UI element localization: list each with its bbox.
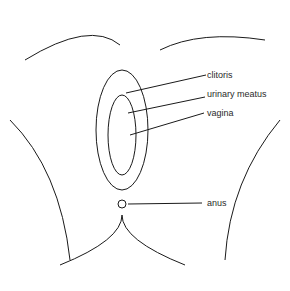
illustration [0, 0, 290, 291]
leader-line-clitoris [126, 75, 206, 93]
leader-line-anus [128, 203, 202, 204]
anatomy-diagram: clitoris urinary meatus vagina anus [0, 0, 290, 291]
label-urinary-meatus: urinary meatus [207, 89, 267, 99]
leader-line-urinary-meatus [128, 97, 205, 113]
label-vagina: vagina [207, 108, 234, 118]
label-clitoris: clitoris [207, 70, 233, 80]
leader-lines [126, 75, 206, 204]
leader-line-vagina [130, 113, 204, 135]
label-anus: anus [207, 198, 227, 208]
